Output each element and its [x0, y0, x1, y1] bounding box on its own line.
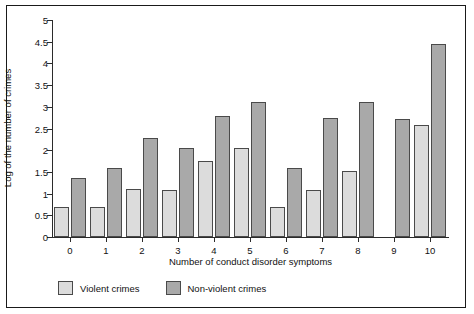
x-tick-label: 1 [103, 245, 108, 256]
x-tick-label: 5 [247, 245, 252, 256]
x-tick-mark [430, 237, 431, 242]
x-tick-label: 3 [175, 245, 180, 256]
x-tick-mark [70, 237, 71, 242]
bar-nonviolent-3 [179, 148, 194, 237]
bar-nonviolent-8 [359, 102, 374, 237]
x-tick-mark [250, 237, 251, 242]
bar-nonviolent-7 [323, 118, 338, 237]
bar-violent-1 [90, 207, 105, 237]
x-tick-label: 9 [391, 245, 396, 256]
bar-violent-8 [342, 171, 357, 237]
x-tick-mark [142, 237, 143, 242]
bar-violent-7 [306, 190, 321, 237]
bar-violent-10 [414, 125, 429, 237]
x-tick-label: 8 [355, 245, 360, 256]
x-tick-mark [322, 237, 323, 242]
bar-violent-0 [54, 207, 69, 237]
x-tick-mark [394, 237, 395, 242]
legend-item-violent: Violent crimes [58, 281, 140, 295]
bar-nonviolent-10 [431, 44, 446, 237]
x-tick-label: 7 [319, 245, 324, 256]
legend-item-nonviolent: Non-violent crimes [166, 281, 267, 295]
bar-violent-5 [234, 148, 249, 237]
bar-nonviolent-6 [287, 168, 302, 237]
x-tick-mark [106, 237, 107, 242]
legend-label-nonviolent: Non-violent crimes [188, 283, 267, 294]
bar-nonviolent-9 [395, 119, 410, 237]
x-tick-mark [214, 237, 215, 242]
bar-violent-2 [126, 189, 141, 237]
x-axis-ticks: 012345678910 [52, 237, 449, 238]
x-tick-mark [178, 237, 179, 242]
x-tick-mark [358, 237, 359, 242]
chart-figure: Log of the number of crimes 00.511.522.5… [0, 0, 474, 314]
bar-nonviolent-0 [71, 178, 86, 237]
bar-nonviolent-4 [215, 116, 230, 237]
legend-swatch-nonviolent-icon [166, 281, 181, 295]
bar-violent-6 [270, 207, 285, 237]
y-axis-label: Log of the number of crimes [2, 69, 13, 187]
x-tick-label: 2 [139, 245, 144, 256]
x-tick-label: 0 [67, 245, 72, 256]
bar-violent-4 [198, 161, 213, 237]
plot-area [52, 20, 448, 237]
x-axis-label: Number of conduct disorder symptoms [52, 256, 449, 267]
bar-nonviolent-5 [251, 102, 266, 237]
bar-nonviolent-1 [107, 168, 122, 237]
bar-violent-3 [162, 190, 177, 237]
x-tick-label: 10 [425, 245, 436, 256]
chart-legend: Violent crimes Non-violent crimes [58, 281, 266, 295]
legend-swatch-violent-icon [58, 281, 73, 295]
x-tick-label: 6 [283, 245, 288, 256]
x-tick-label: 4 [211, 245, 216, 256]
x-tick-mark [286, 237, 287, 242]
bar-nonviolent-2 [143, 138, 158, 237]
legend-label-violent: Violent crimes [80, 283, 140, 294]
